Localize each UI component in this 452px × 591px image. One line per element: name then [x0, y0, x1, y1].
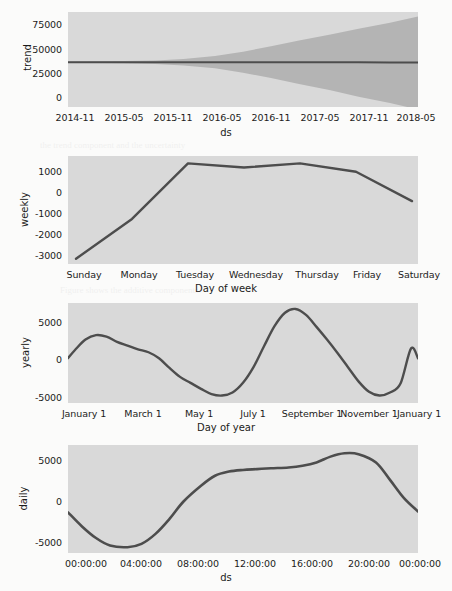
panel-daily: daily 5000 0 -5000 00:00:00 04:00:00 08:… [0, 437, 452, 591]
daily-series [68, 445, 418, 553]
panel-daily-ytick--5000: -5000 [18, 537, 62, 548]
panel-daily-ytick-0: 0 [18, 496, 62, 507]
panel-weekly-xtick-6: Saturday [398, 269, 440, 280]
panel-trend-xtick-4: 2016-11 [252, 112, 291, 123]
panel-yearly: yearly 5000 0 -5000 January 1 March 1 Ma… [0, 295, 452, 437]
panel-daily-xtick-2: 08:00:00 [177, 558, 219, 569]
panel-weekly-ytick--1000: -1000 [18, 208, 62, 219]
yearly-series [68, 303, 418, 403]
panel-trend-ytick-75000: 75000 [18, 19, 62, 30]
panel-daily-ytick-5000: 5000 [18, 454, 62, 465]
panel-daily-xlabel: ds [0, 572, 452, 583]
panel-trend-xtick-7: 2018-05 [397, 112, 436, 123]
panel-daily-xtick-6: 00:00:00 [399, 558, 441, 569]
weekly-series [68, 156, 418, 264]
panel-trend-xlabel: ds [0, 127, 452, 138]
panel-yearly-ylabel: yearly [20, 323, 31, 383]
panel-trend-xtick-0: 2014-11 [56, 112, 95, 123]
panel-weekly-xtick-4: Thursday [295, 269, 338, 280]
panel-daily-xtick-4: 16:00:00 [291, 558, 333, 569]
panel-yearly-xtick-3: July 1 [240, 408, 266, 419]
panel-yearly-plot-area [68, 303, 418, 403]
panel-weekly-ytick--2000: -2000 [18, 229, 62, 240]
panel-trend-plot-area [68, 12, 418, 107]
panel-weekly-xtick-2: Tuesday [176, 269, 214, 280]
panel-daily-xtick-5: 20:00:00 [348, 558, 390, 569]
panel-trend-xtick-2: 2015-11 [154, 112, 193, 123]
panel-trend-ytick-50000: 50000 [18, 43, 62, 54]
yearly-line [68, 309, 418, 396]
panel-yearly-xtick-5: November 1 [340, 408, 398, 419]
panel-yearly-xtick-2: May 1 [185, 408, 213, 419]
trend-series [68, 12, 418, 107]
panel-yearly-ytick-5000: 5000 [18, 317, 62, 328]
panel-trend-ytick-25000: 25000 [18, 67, 62, 78]
panel-trend-ylabel: trend [22, 28, 33, 88]
panel-trend-xtick-3: 2016-05 [203, 112, 242, 123]
prophet-components-figure: the trend component and the uncertainty … [0, 0, 452, 591]
panel-weekly-xtick-5: Friday [353, 269, 381, 280]
panel-weekly-ytick-0: 0 [18, 187, 62, 198]
panel-yearly-xtick-4: September 1 [282, 408, 342, 419]
panel-weekly: weekly 1000 0 -1000 -2000 -3000 Sunday M… [0, 148, 452, 295]
panel-yearly-xtick-1: March 1 [124, 408, 161, 419]
panel-weekly-plot-area [68, 156, 418, 264]
panel-weekly-xtick-3: Wednesday [229, 269, 283, 280]
panel-weekly-xlabel: Day of week [0, 283, 452, 294]
panel-weekly-xtick-0: Sunday [67, 269, 102, 280]
panel-daily-xtick-0: 00:00:00 [65, 558, 107, 569]
panel-yearly-ytick-0: 0 [18, 354, 62, 365]
panel-weekly-ytick--3000: -3000 [18, 250, 62, 261]
daily-line [68, 453, 418, 547]
panel-trend-xtick-6: 2017-11 [350, 112, 389, 123]
panel-trend-xtick-5: 2017-05 [301, 112, 340, 123]
panel-daily-xtick-3: 12:00:00 [234, 558, 276, 569]
panel-weekly-ytick-1000: 1000 [18, 165, 62, 176]
panel-yearly-xlabel: Day of year [0, 422, 452, 433]
panel-daily-plot-area [68, 445, 418, 553]
panel-trend-xtick-1: 2015-05 [105, 112, 144, 123]
panel-trend-ytick-0: 0 [18, 92, 62, 103]
panel-trend: trend 75000 50000 25000 0 2014-11 2015-0… [0, 0, 452, 148]
panel-yearly-xtick-0: January 1 [62, 408, 106, 419]
panel-daily-xtick-1: 04:00:00 [120, 558, 162, 569]
panel-yearly-xtick-6: January 1 [397, 408, 441, 419]
panel-yearly-ytick--5000: -5000 [18, 391, 62, 402]
weekly-line [76, 163, 412, 258]
panel-weekly-xtick-1: Monday [121, 269, 158, 280]
